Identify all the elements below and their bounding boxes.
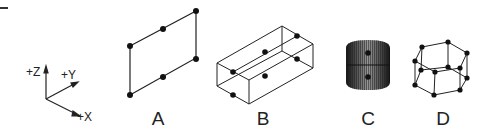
point xyxy=(365,50,371,56)
point xyxy=(294,33,300,39)
y-axis-line xyxy=(46,84,74,99)
point xyxy=(230,69,236,75)
point xyxy=(160,74,166,80)
point xyxy=(193,56,199,62)
point xyxy=(457,65,462,70)
point xyxy=(127,43,133,49)
box-edge xyxy=(249,68,313,104)
y-arrow-icon xyxy=(71,82,78,87)
point xyxy=(457,87,462,92)
point xyxy=(445,64,450,69)
point xyxy=(230,92,236,98)
figure-d-label: D xyxy=(436,108,450,130)
point xyxy=(418,67,423,72)
point xyxy=(431,92,436,97)
figure-d xyxy=(412,39,469,97)
figure-a xyxy=(127,8,199,98)
point xyxy=(193,8,199,14)
x-axis-label: +X xyxy=(77,110,92,124)
figure-a-label: A xyxy=(152,108,165,130)
point xyxy=(432,69,437,74)
point xyxy=(160,26,166,32)
figure-c-label: C xyxy=(361,108,375,130)
point xyxy=(127,92,133,98)
point xyxy=(445,39,450,44)
figure-c xyxy=(346,40,390,90)
y-axis-label: +Y xyxy=(61,68,76,82)
parallelogram xyxy=(130,11,196,95)
z-arrow-icon xyxy=(44,66,48,73)
point xyxy=(262,49,268,55)
point xyxy=(262,73,268,79)
figure-b-label: B xyxy=(257,108,270,130)
x-axis-line xyxy=(46,99,76,114)
point xyxy=(464,75,469,80)
point xyxy=(365,74,371,80)
point xyxy=(464,50,469,55)
point xyxy=(412,82,417,87)
figure-b xyxy=(217,26,313,104)
point xyxy=(419,44,424,49)
point xyxy=(294,56,300,62)
point xyxy=(412,58,417,63)
z-axis-label: +Z xyxy=(26,65,40,79)
